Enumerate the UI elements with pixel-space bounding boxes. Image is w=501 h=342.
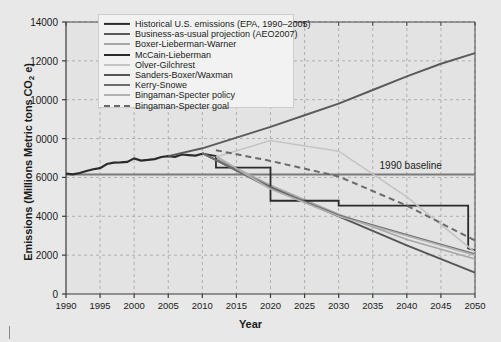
- y-tick-label: 2000: [12, 250, 58, 261]
- x-axis-title: Year: [0, 318, 501, 330]
- legend-item[interactable]: Olver-Gilchrest: [104, 60, 195, 70]
- y-axis-title-prefix: Emissions (Millions Metric tons CO: [22, 80, 34, 261]
- legend-label: McCain-Lieberman: [135, 50, 211, 60]
- y-tick-label: 6000: [12, 172, 58, 183]
- y-tick-label: 10000: [12, 94, 58, 105]
- legend-label: Kerry-Snowe: [135, 80, 187, 90]
- legend-label: Sanders-Boxer/Waxman: [135, 70, 233, 80]
- legend-item[interactable]: Bingaman-Specter policy: [104, 90, 235, 100]
- emissions-line-chart: Emissions (Millions Metric tons CO2 e) Y…: [0, 0, 501, 342]
- legend-item[interactable]: Business-as-usual projection (AEO2007): [104, 29, 298, 39]
- corner-marker: [9, 326, 10, 339]
- legend-item[interactable]: Sanders-Boxer/Waxman: [104, 70, 233, 80]
- legend-item[interactable]: Boxer-Lieberman-Warner: [104, 39, 236, 49]
- y-tick-label: 4000: [12, 211, 58, 222]
- legend-label: Historical U.S. emissions (EPA, 1990–200…: [135, 19, 310, 29]
- y-tick-label: 0: [12, 289, 58, 300]
- legend-item[interactable]: McCain-Lieberman: [104, 50, 211, 60]
- legend-label: Boxer-Lieberman-Warner: [135, 39, 236, 49]
- legend-label: Business-as-usual projection (AEO2007): [135, 29, 298, 39]
- y-tick-label: 0000: [12, 133, 58, 144]
- legend-item[interactable]: Kerry-Snowe: [104, 80, 187, 90]
- y-tick-label: 12000: [12, 55, 58, 66]
- chart-legend: Historical U.S. emissions (EPA, 1990–200…: [98, 14, 294, 108]
- y-tick-label: 14000: [12, 17, 58, 28]
- x-tick-label: 2050: [455, 300, 495, 311]
- legend-item[interactable]: Bingaman-Specter goal: [104, 101, 229, 111]
- legend-label: Olver-Gilchrest: [135, 60, 195, 70]
- y-axis-title-subscript: 2: [27, 76, 36, 80]
- legend-item[interactable]: Historical U.S. emissions (EPA, 1990–200…: [104, 19, 310, 29]
- legend-label: Bingaman-Specter goal: [135, 101, 229, 111]
- legend-label: Bingaman-Specter policy: [135, 90, 235, 100]
- baseline-annotation-label: 1990 baseline: [380, 160, 442, 171]
